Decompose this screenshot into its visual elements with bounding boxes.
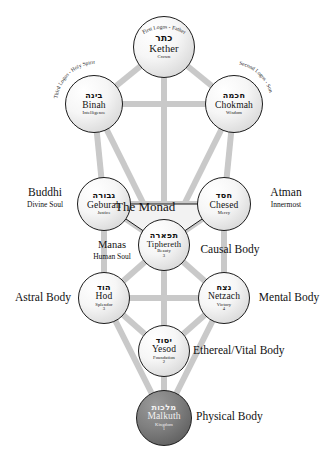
sephirah-netzach[interactable]: נצח Netzach Victory 4 xyxy=(198,272,250,324)
atman-sub: Innermost xyxy=(252,200,320,209)
yesod-number: 2 xyxy=(163,360,165,365)
label-mental-body: Mental Body xyxy=(252,291,326,304)
astral-body-title: Astral Body xyxy=(8,291,78,304)
sephirah-tiphereth[interactable]: תפארה Tiphereth Beauty 3 xyxy=(138,219,190,271)
mental-body-title: Mental Body xyxy=(252,291,326,304)
label-astral-body: Astral Body xyxy=(8,291,78,304)
svg-text:Second Logos - Son: Second Logos - Son xyxy=(239,61,275,93)
buddhi-sub: Divine Soul xyxy=(12,200,78,209)
arc-text-kether: First Logos - Father xyxy=(141,23,187,35)
label-causal-body: Causal Body xyxy=(190,243,270,256)
sephirah-yesod[interactable]: יסוד Yesod Foundation 2 xyxy=(138,325,190,377)
malkuth-number: 1 xyxy=(163,427,165,432)
causal-body-title: Causal Body xyxy=(190,243,270,256)
netzach-name: Netzach xyxy=(208,292,240,302)
physical-body-title: Physical Body xyxy=(196,410,306,423)
yesod-name: Yesod xyxy=(152,345,176,355)
malkuth-name: Malkuth xyxy=(147,412,180,422)
label-atman: Atman Innermost xyxy=(252,186,320,209)
svg-text:Third Logos - Holy Spirit: Third Logos - Holy Spirit xyxy=(52,61,95,99)
netzach-number: 4 xyxy=(223,307,225,312)
geburah-subtitle: Justice xyxy=(97,211,110,216)
chesed-name: Chesed xyxy=(210,201,239,211)
label-buddhi: Buddhi Divine Soul xyxy=(12,186,78,209)
arc-label-chokmah: Second Logos - Son xyxy=(191,61,277,147)
manas-sub: Human Soul xyxy=(86,252,138,261)
label-manas: Manas Human Soul xyxy=(86,239,138,261)
hod-name: Hod xyxy=(96,292,113,302)
tiphereth-number: 3 xyxy=(163,254,165,259)
manas-title: Manas xyxy=(86,239,138,251)
chesed-subtitle: Mercy xyxy=(218,211,231,216)
sephirah-malkuth[interactable]: מלכות Malkuth Kingdom 1 xyxy=(136,390,192,446)
svg-text:First Logos - Father: First Logos - Father xyxy=(141,23,187,35)
sephirah-hod[interactable]: הוד Hod Splendor 3 xyxy=(78,272,130,324)
tree-of-life-diagram: First Logos - Father Third Logos - Holy … xyxy=(0,0,329,458)
label-physical-body: Physical Body xyxy=(196,410,306,423)
buddhi-title: Buddhi xyxy=(12,186,78,199)
hod-number: 3 xyxy=(103,307,105,312)
arc-text-chokmah: Second Logos - Son xyxy=(239,61,275,93)
monad-label: The Monad xyxy=(115,199,175,215)
sephirah-chesed[interactable]: חסד Chesed Mercy xyxy=(197,177,251,231)
arc-label-binah: Third Logos - Holy Spirit xyxy=(51,61,137,147)
ethereal-body-title: Ethereal/Vital Body xyxy=(193,344,323,357)
atman-title: Atman xyxy=(252,186,320,199)
arc-text-binah: Third Logos - Holy Spirit xyxy=(52,61,95,99)
label-ethereal-body: Ethereal/Vital Body xyxy=(193,344,323,357)
